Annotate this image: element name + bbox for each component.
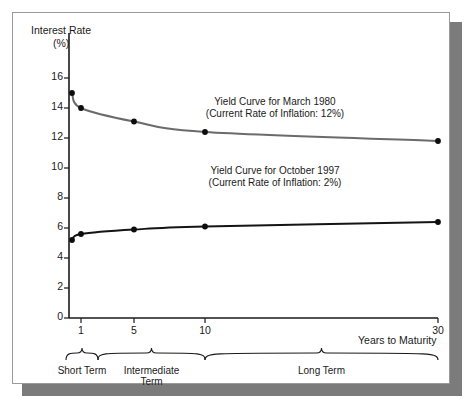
maturity-bracket-label: IntermediateTerm <box>92 365 212 387</box>
data-point-marker <box>78 231 84 237</box>
maturity-bracket <box>205 348 438 360</box>
maturity-bracket <box>66 348 98 360</box>
y-tick-label: 4 <box>35 251 63 263</box>
data-point-marker <box>78 105 84 111</box>
march-1980-annotation-line1: Yield Curve for March 1980 <box>175 96 375 107</box>
maturity-brackets <box>66 348 438 360</box>
y-tick-label: 10 <box>35 161 63 173</box>
y-tick-label: 14 <box>35 101 63 113</box>
march-1980-annotation-line2: (Current Rate of Inflation: 12%) <box>175 108 375 119</box>
october-1997-annotation-line2: (Current Rate of Inflation: 2%) <box>175 177 375 188</box>
x-tick-label: 1 <box>61 325 101 337</box>
y-axis-title-line2: (%) <box>53 38 69 50</box>
series-curve <box>72 222 438 240</box>
maturity-bracket-label-line1: Intermediate <box>92 365 212 376</box>
maturity-bracket-label: Long Term <box>262 365 382 376</box>
y-tick-label: 6 <box>35 221 63 233</box>
data-point-marker <box>69 237 75 243</box>
data-point-marker <box>435 219 441 225</box>
chart-panel: Interest Rate (%) 0246810121416 151030 Y… <box>12 12 450 384</box>
yield-curve-figure: Interest Rate (%) 0246810121416 151030 Y… <box>0 0 468 406</box>
october-1997-annotation-line1: Yield Curve for October 1997 <box>175 165 375 176</box>
data-point-marker <box>202 129 208 135</box>
maturity-bracket-label-line2: Term <box>92 376 212 387</box>
y-tick-label: 0 <box>35 311 63 323</box>
y-axis-title-line1: Interest Rate <box>31 25 91 37</box>
data-point-marker <box>131 227 137 233</box>
x-tick-label: 10 <box>185 325 225 337</box>
y-tick-label: 8 <box>35 191 63 203</box>
maturity-bracket <box>98 348 205 360</box>
data-point-marker <box>69 90 75 96</box>
data-point-marker <box>131 119 137 125</box>
y-tick-label: 16 <box>35 71 63 83</box>
y-tick-label: 2 <box>35 281 63 293</box>
maturity-bracket-label-line1: Long Term <box>262 365 382 376</box>
y-tick-label: 12 <box>35 131 63 143</box>
x-tick-label: 5 <box>114 325 154 337</box>
x-axis-title: Years to Maturity <box>358 335 436 347</box>
data-point-marker <box>202 224 208 230</box>
data-point-marker <box>435 138 441 144</box>
